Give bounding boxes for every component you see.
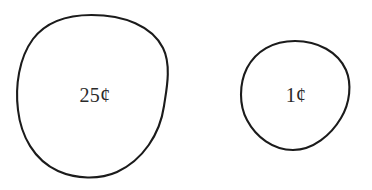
quarter-coin-label: 25¢: [80, 84, 111, 106]
penny-coin-label: 1¢: [286, 84, 307, 106]
coin-comparison-figure: 25¢ 1¢: [0, 0, 372, 190]
figure-canvas: 25¢ 1¢: [0, 0, 372, 190]
